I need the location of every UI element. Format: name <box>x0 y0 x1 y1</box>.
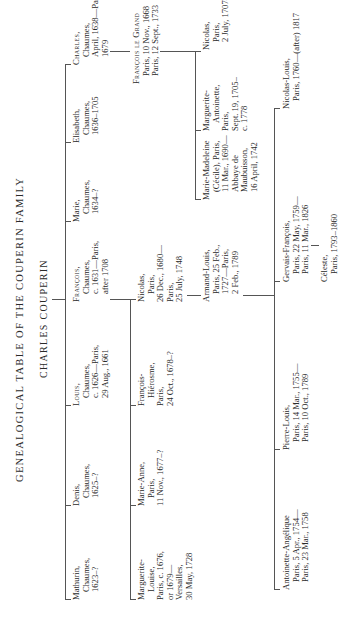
person-francois: François,Chaumes,c. 1631—Paris,after 170… <box>72 241 110 302</box>
person-marie-madeleine: Marie-Madeleine(Cécile), Paris,11 Mar., … <box>202 136 260 201</box>
person-denis: Denis,Chaumes,1625–? <box>72 464 101 506</box>
tick <box>274 589 280 590</box>
person-charles: Charles,Chaumes,April, 1638—Paris,1679 <box>72 0 110 65</box>
person-pierre-louis: Pierre-Louis,Paris, 14 Mar., 1755—Paris,… <box>282 364 311 450</box>
root-ancestor: CHARLES COUPERIN <box>38 259 49 378</box>
gen2-bracket-legrand <box>195 51 196 200</box>
gen1-bracket <box>65 65 66 600</box>
person-louis: Louis,Chaumes,c. 1626—Paris,29 Aug., 166… <box>72 345 110 406</box>
person-nicolas-1707: Nicolas,Paris,2 July, 1707–? <box>202 0 231 50</box>
tick <box>274 449 280 450</box>
person-francois-le-grand: François le GrandParis, 10 Nov., 1668Par… <box>132 5 161 84</box>
tick <box>274 281 280 282</box>
person-gervais-francois: Gervais-François,Paris, 22 May, 1759—Par… <box>282 197 311 283</box>
legrand-connector <box>160 51 195 52</box>
person-marie: Marie,Chaumes,1634–? <box>72 180 101 222</box>
person-mathurin: Mathurin,Chaumes,1623–? <box>72 558 101 600</box>
charles-connector <box>110 51 130 52</box>
armand-connector <box>243 295 274 296</box>
page-title: GENEALOGICAL TABLE OF THE COUPERIN FAMIL… <box>14 177 25 482</box>
person-armand-louis: Armand-Louis,Paris, 25 Feb.,1727—Paris,2… <box>202 245 240 302</box>
person-antoinette-angelique: Antoinette-AngéliqueParis, 5 Apr., 1754—… <box>282 509 311 590</box>
gervais-connector <box>311 245 319 246</box>
root-connector <box>52 299 65 300</box>
person-elisabeth: Elisabeth,Chaumes,1636–1705 <box>72 96 101 143</box>
tick <box>274 108 280 109</box>
nicolas-connector <box>187 295 201 296</box>
person-marguerite-antoinette: Marguerite-Antoinette,Paris,Sept. 19, 17… <box>202 77 250 131</box>
person-francois-hierosme: François-Hiérosme,Paris,24 Oct., 1678–? <box>137 351 175 406</box>
tick <box>195 51 201 52</box>
francois-connector <box>110 299 130 300</box>
person-nicolas-louis: Nicolas-Louis,Paris, 1760—(after) 1817 <box>282 13 301 109</box>
person-marguerite-louise: Marguerite-Louise,Paris, c. 1676,or 1679… <box>137 551 195 600</box>
genealogy-page: GENEALOGICAL TABLE OF THE COUPERIN FAMIL… <box>0 0 343 628</box>
gen3-bracket <box>274 109 275 590</box>
person-nicolas-1680: Nicolas,Paris,26 Dec., 1680—Paris,25 Jul… <box>137 245 185 302</box>
person-celeste: Céleste,Paris, 1793–1860 <box>320 214 339 282</box>
person-marie-anne: Marie-Anne,Paris,11 Nov., 1677–? <box>137 450 166 506</box>
gen2-bracket-francois <box>130 300 131 600</box>
